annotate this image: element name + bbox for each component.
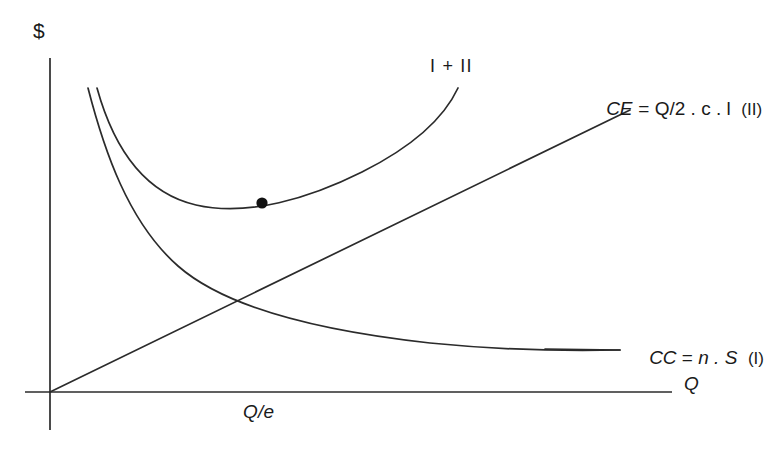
carrying-cost-roman-numeral: (II)	[741, 100, 762, 119]
ordering-cost-equation-label: CC = n . S (I)	[628, 329, 764, 386]
carrying-cost-expression: Q/2 . c . l	[655, 98, 731, 119]
ordering-cost-roman-numeral: (I)	[748, 349, 764, 368]
carrying-cost-symbol: CE	[606, 98, 632, 119]
eoq-cost-curves-figure: $ Q Q/e I + II CE = Q/2 . c . l (II) CC …	[0, 0, 780, 462]
total-cost-curve	[97, 88, 458, 209]
total-cost-curve-label: I + II	[430, 57, 473, 75]
carrying-cost-equals-sign: =	[638, 98, 649, 119]
optimum-quantity-label: Q/e	[243, 402, 274, 421]
ordering-cost-symbol: CC	[649, 347, 676, 368]
cost-axis-label: $	[33, 20, 45, 41]
diagram-canvas	[0, 0, 780, 462]
ordering-cost-equals-sign: =	[682, 347, 693, 368]
ordering-cost-leader-line	[545, 349, 620, 350]
optimum-point-marker	[256, 197, 267, 208]
ordering-cost-curve	[88, 88, 620, 350]
ordering-cost-expression: n . S	[698, 347, 737, 368]
carrying-cost-equation-label: CE = Q/2 . c . l (II)	[585, 80, 762, 137]
